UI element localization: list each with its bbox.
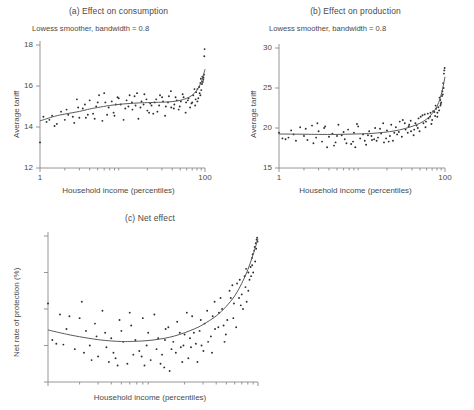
panel-b: (b) Effect on production Lowess smoother…	[237, 0, 474, 205]
x-tick-label: 1	[25, 173, 55, 182]
y-tick-label: 16	[0, 81, 33, 90]
y-tick-label: 12	[0, 163, 33, 172]
y-tick-label: 18	[0, 40, 33, 49]
x-tick-label: 100	[430, 173, 460, 182]
x-tick-label: 100	[190, 173, 220, 182]
y-tick-label: 14	[0, 122, 33, 131]
panel-c-plot	[0, 205, 300, 410]
y-tick-label: 20	[237, 123, 272, 132]
y-tick-label: 25	[237, 83, 272, 92]
panel-c: (c) Net effect Net rate of protection (%…	[0, 205, 300, 410]
panel-a: (a) Effect on consumption Lowess smoothe…	[0, 0, 237, 205]
figure-container: (a) Effect on consumption Lowess smoothe…	[0, 0, 474, 410]
y-tick-label: 15	[237, 163, 272, 172]
x-tick-label: 1	[264, 173, 294, 182]
y-tick-label: 30	[237, 43, 272, 52]
